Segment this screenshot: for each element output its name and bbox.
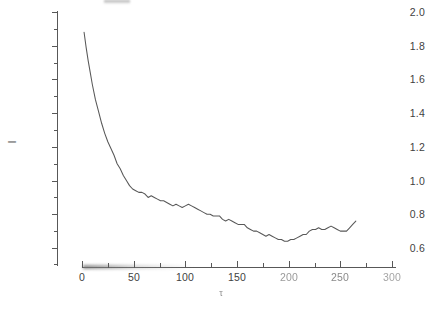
plot-area [0,0,425,312]
data-series-line [84,32,356,241]
figure-canvas: 2.0 1.8 1.6 1.4 1.2 1.0 0.8 0.6 0 50 100… [0,0,425,312]
